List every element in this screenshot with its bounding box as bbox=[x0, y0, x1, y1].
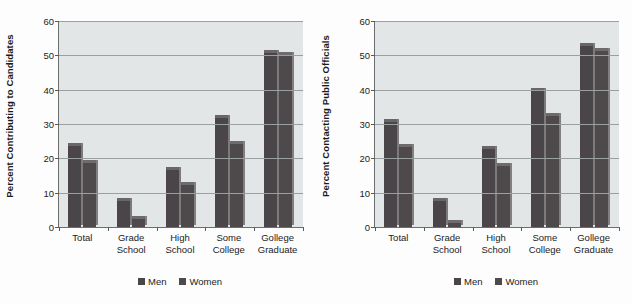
legend-label-women: Women bbox=[505, 276, 538, 287]
plot-area-left: 0102030405060 bbox=[58, 21, 303, 228]
bar-men bbox=[384, 121, 399, 227]
bar-face bbox=[215, 117, 228, 227]
x-axis-label: GradeSchool bbox=[423, 232, 472, 255]
x-axis-label: GollegeGraduate bbox=[569, 232, 618, 255]
bar-top bbox=[482, 146, 495, 149]
bar-face bbox=[546, 115, 559, 227]
bar-side bbox=[608, 48, 610, 225]
plot-area-right: 0102030405060 bbox=[374, 21, 619, 228]
y-tick-label: 0 bbox=[49, 222, 54, 233]
y-tick-label: 60 bbox=[43, 16, 54, 27]
x-axis-label-line: School bbox=[156, 244, 205, 256]
bar-men bbox=[215, 117, 230, 227]
bar-side bbox=[461, 220, 463, 225]
bar-top bbox=[215, 115, 228, 118]
bar-top bbox=[433, 198, 446, 201]
bar-face bbox=[580, 45, 593, 227]
bar-face bbox=[68, 145, 81, 227]
y-tick-label: 20 bbox=[43, 153, 54, 164]
x-tick-mark bbox=[375, 227, 376, 231]
bar-side bbox=[145, 216, 147, 225]
gridline bbox=[375, 21, 619, 22]
y-tick-mark bbox=[55, 55, 59, 56]
bar-face bbox=[181, 184, 194, 227]
bar-top bbox=[497, 163, 510, 166]
bar-face bbox=[595, 50, 608, 227]
figure-two-bar-charts: Percent Contributing to Candidates 01020… bbox=[0, 0, 632, 304]
bar-face bbox=[230, 143, 243, 227]
y-tick-label: 30 bbox=[43, 119, 54, 130]
x-axis-label: Total bbox=[58, 232, 107, 255]
y-tick-label: 30 bbox=[359, 119, 370, 130]
x-axis-label-line: Gollege bbox=[253, 232, 302, 244]
bar-face bbox=[497, 165, 510, 227]
legend-item-women: Women bbox=[495, 276, 538, 287]
gridline bbox=[375, 124, 619, 125]
gridline bbox=[375, 55, 619, 56]
y-tick-mark bbox=[55, 193, 59, 194]
x-axis-label-line: School bbox=[107, 244, 156, 256]
bar-face bbox=[132, 218, 145, 227]
y-tick-label: 10 bbox=[43, 187, 54, 198]
y-tick-mark bbox=[55, 90, 59, 91]
legend-right: Men Women bbox=[374, 276, 618, 287]
bar-men bbox=[482, 148, 497, 227]
x-axis-label-line: Grade bbox=[423, 232, 472, 244]
bar-face bbox=[83, 162, 96, 227]
x-tick-mark bbox=[570, 227, 571, 231]
bar-face bbox=[384, 121, 397, 227]
bar-men bbox=[433, 200, 448, 227]
y-tick-mark bbox=[371, 124, 375, 125]
y-tick-label: 10 bbox=[359, 187, 370, 198]
bar-women bbox=[448, 222, 463, 227]
bar-men bbox=[166, 169, 181, 227]
y-tick-mark bbox=[55, 21, 59, 22]
bar-top bbox=[595, 48, 608, 51]
bar-face bbox=[279, 54, 292, 227]
x-tick-mark bbox=[205, 227, 206, 231]
bar-side bbox=[194, 182, 196, 225]
x-axis-label: HighSchool bbox=[472, 232, 521, 255]
y-axis-title-right: Percent Contacting Public Officials bbox=[318, 0, 334, 232]
bar-top bbox=[68, 143, 81, 146]
x-tick-mark bbox=[254, 227, 255, 231]
bar-face bbox=[117, 200, 130, 227]
y-tick-label: 50 bbox=[43, 50, 54, 61]
bar-men bbox=[117, 200, 132, 227]
bar-women bbox=[83, 162, 98, 227]
y-tick-label: 60 bbox=[359, 16, 370, 27]
x-axis-label-line: Some bbox=[520, 232, 569, 244]
x-axis-label-line: High bbox=[156, 232, 205, 244]
bar-side bbox=[243, 141, 245, 225]
y-tick-mark bbox=[371, 21, 375, 22]
chart-panel-contacting: Percent Contacting Public Officials 0102… bbox=[316, 0, 632, 304]
gridline bbox=[59, 90, 303, 91]
x-axis-label-line: Total bbox=[374, 232, 423, 244]
bar-top bbox=[384, 119, 397, 122]
x-axis-label-line: College bbox=[204, 244, 253, 256]
gridline bbox=[59, 158, 303, 159]
x-axis-label-line: Gollege bbox=[569, 232, 618, 244]
gridline bbox=[375, 193, 619, 194]
bar-face bbox=[166, 169, 179, 227]
x-axis-label-line: Some bbox=[204, 232, 253, 244]
bar-men bbox=[264, 52, 279, 227]
y-tick-mark bbox=[371, 90, 375, 91]
y-tick-mark bbox=[55, 158, 59, 159]
bar-women bbox=[132, 218, 147, 227]
bar-top bbox=[132, 216, 145, 219]
bar-top bbox=[264, 50, 277, 53]
y-tick-mark bbox=[371, 55, 375, 56]
bar-women bbox=[181, 184, 196, 227]
bar-top bbox=[279, 52, 292, 55]
x-axis-label-line: School bbox=[423, 244, 472, 256]
bar-top bbox=[399, 144, 412, 147]
legend-item-men: Men bbox=[454, 276, 482, 287]
bar-top bbox=[448, 220, 461, 223]
bar-top bbox=[83, 160, 96, 163]
y-tick-mark bbox=[55, 124, 59, 125]
bar-side bbox=[559, 113, 561, 225]
legend-swatch-women-icon bbox=[179, 278, 186, 285]
y-tick-mark bbox=[371, 158, 375, 159]
x-axis-label: SomeCollege bbox=[520, 232, 569, 255]
